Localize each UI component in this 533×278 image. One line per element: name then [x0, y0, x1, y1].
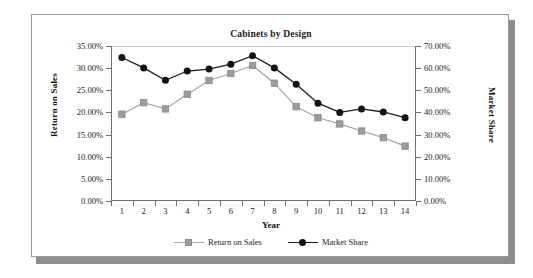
y-axis-left-tick-label: 15.00% — [77, 130, 103, 140]
data-point-marker — [140, 99, 146, 105]
data-point-marker — [184, 91, 190, 97]
y-axis-right-tick-label: 10.00% — [424, 174, 450, 184]
data-point-marker — [140, 64, 147, 71]
y-axis-left-tick-label: 30.00% — [77, 63, 103, 73]
legend-line-icon-return-on-sales — [174, 238, 204, 247]
y-axis-left-tick-label: 35.00% — [77, 41, 103, 51]
x-axis-tick — [176, 201, 177, 206]
y-axis-left-tick-label: 20.00% — [77, 107, 103, 117]
x-axis-tick-label: 12 — [357, 206, 366, 216]
data-point-marker — [271, 80, 277, 86]
x-axis-tick-label: 8 — [272, 206, 276, 216]
data-point-marker — [402, 143, 408, 149]
chart-legend: Return on Sales Market Share — [32, 237, 510, 247]
y-axis-right-tick — [416, 157, 421, 158]
legend-label-return-on-sales: Return on Sales — [208, 237, 262, 247]
x-axis-tick — [394, 201, 395, 206]
data-point-marker — [380, 134, 386, 140]
y-axis-right-tick-label: 70.00% — [424, 41, 450, 51]
x-axis-tick — [264, 201, 265, 206]
x-axis-tick — [198, 201, 199, 206]
y-axis-left-tick — [106, 90, 111, 91]
square-marker-icon — [185, 239, 192, 246]
legend-label-market-share: Market Share — [322, 237, 368, 247]
x-axis-tick-label: 7 — [250, 206, 254, 216]
data-point-marker — [162, 77, 169, 84]
x-axis-tick — [351, 201, 352, 206]
x-axis-tick — [307, 201, 308, 206]
y-axis-right-tick-label: 30.00% — [424, 130, 450, 140]
data-point-marker — [162, 106, 168, 112]
y-axis-right-tick-label: 40.00% — [424, 107, 450, 117]
data-point-marker — [293, 81, 300, 88]
data-point-marker — [206, 77, 212, 83]
y-axis-left-tick-label: 10.00% — [77, 152, 103, 162]
x-axis-tick-label: 13 — [379, 206, 388, 216]
data-point-marker — [380, 108, 387, 115]
y-axis-title-left: Return on Sales — [49, 73, 59, 137]
x-axis-tick-label: 1 — [120, 206, 124, 216]
x-axis-tick — [285, 201, 286, 206]
x-axis-tick-label: 14 — [401, 206, 410, 216]
y-axis-right-tick — [416, 179, 421, 180]
y-axis-title-right: Market Share — [487, 87, 497, 143]
y-axis-right-tick — [416, 46, 421, 47]
circle-marker-icon — [299, 239, 306, 246]
x-axis-tick — [220, 201, 221, 206]
x-axis-tick-label: 11 — [336, 206, 344, 216]
x-axis-tick-label: 4 — [185, 206, 189, 216]
x-axis-tick — [372, 201, 373, 206]
x-axis-tick — [416, 201, 417, 206]
data-point-marker — [358, 128, 364, 134]
x-axis-tick-label: 6 — [229, 206, 233, 216]
x-axis-tick — [111, 201, 112, 206]
plot-area: 0.00%5.00%10.00%15.00%20.00%25.00%30.00%… — [111, 46, 416, 201]
y-axis-left-tick — [106, 46, 111, 47]
x-axis-tick — [242, 201, 243, 206]
data-point-marker — [184, 68, 191, 75]
chart-frame: Cabinets by Design Return on Sales Marke… — [31, 14, 509, 257]
x-axis-title: Year — [32, 220, 510, 230]
data-point-marker — [271, 64, 278, 71]
y-axis-left-tick — [106, 135, 111, 136]
data-point-marker — [206, 66, 213, 73]
y-axis-left-tick — [106, 157, 111, 158]
y-axis-left-tick — [106, 179, 111, 180]
legend-item-market-share[interactable]: Market Share — [288, 237, 368, 247]
y-axis-left-tick-label: 0.00% — [81, 196, 103, 206]
data-point-marker — [293, 103, 299, 109]
x-axis-tick-label: 2 — [142, 206, 146, 216]
data-point-marker — [315, 115, 321, 121]
data-point-marker — [249, 62, 255, 68]
y-axis-left-tick — [106, 68, 111, 69]
data-point-marker — [227, 61, 234, 68]
y-axis-right-tick — [416, 135, 421, 136]
x-axis-tick — [155, 201, 156, 206]
data-point-marker — [228, 70, 234, 76]
x-axis-tick — [329, 201, 330, 206]
data-point-marker — [119, 111, 125, 117]
y-axis-right-tick-label: 60.00% — [424, 63, 450, 73]
y-axis-right-tick — [416, 90, 421, 91]
y-axis-left-tick-label: 25.00% — [77, 85, 103, 95]
x-axis-tick-label: 9 — [294, 206, 298, 216]
data-point-marker — [358, 105, 365, 112]
legend-line-icon-market-share — [288, 238, 318, 247]
x-axis-tick-label: 10 — [314, 206, 323, 216]
data-point-marker — [118, 54, 125, 61]
data-point-marker — [249, 52, 256, 59]
y-axis-right-tick — [416, 68, 421, 69]
y-axis-right-tick-label: 0.00% — [424, 196, 446, 206]
chart-title: Cabinets by Design — [32, 29, 510, 39]
data-point-marker — [336, 109, 343, 116]
y-axis-left-tick — [106, 112, 111, 113]
data-point-marker — [314, 100, 321, 107]
y-axis-left-tick-label: 5.00% — [81, 174, 103, 184]
y-axis-right-tick-label: 50.00% — [424, 85, 450, 95]
y-axis-right-tick — [416, 112, 421, 113]
chart-page: Cabinets by Design Return on Sales Marke… — [0, 0, 533, 278]
legend-item-return-on-sales[interactable]: Return on Sales — [174, 237, 262, 247]
x-axis-tick-label: 3 — [163, 206, 167, 216]
x-axis-tick-label: 5 — [207, 206, 211, 216]
series-layer — [111, 46, 416, 201]
